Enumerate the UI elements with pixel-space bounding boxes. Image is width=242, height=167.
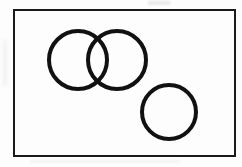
diagram-canvas: Three circles diagram Hand-drawn style l… (0, 0, 242, 167)
circle-b-right-overlapping (88, 31, 146, 89)
three-circles-diagram: Three circles diagram Hand-drawn style l… (0, 0, 242, 167)
circle-c-separate (142, 85, 196, 139)
